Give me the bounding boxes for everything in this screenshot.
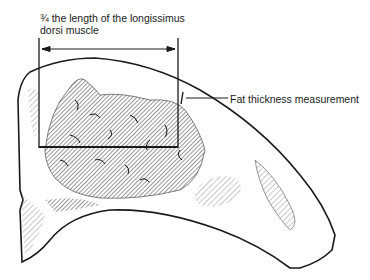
longissimus-muscle bbox=[45, 79, 205, 199]
fat-seam-left bbox=[28, 88, 40, 140]
bone-area bbox=[22, 195, 45, 255]
secondary-muscle bbox=[195, 176, 241, 207]
tail-muscle bbox=[255, 160, 295, 230]
rib-cross-section-diagram bbox=[0, 0, 370, 280]
lower-seam bbox=[45, 198, 100, 212]
